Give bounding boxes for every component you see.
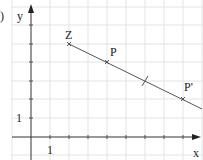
point-z-label: Z xyxy=(65,28,72,42)
y-axis-label: y xyxy=(17,9,23,23)
point-z: Z xyxy=(65,28,72,46)
y-axis-arrow-icon xyxy=(28,4,34,13)
x-axis-arrow-icon xyxy=(192,134,201,140)
x-axis-label: x xyxy=(193,146,199,160)
point-p-label: P xyxy=(110,45,117,59)
coordinate-diagram: ) y x 1 1 Z P P' xyxy=(0,0,203,160)
x-unit-label: 1 xyxy=(47,143,53,157)
part-label: ) xyxy=(0,9,4,23)
y-unit-label: 1 xyxy=(16,111,22,125)
point-p-prime-label: P' xyxy=(184,80,193,94)
